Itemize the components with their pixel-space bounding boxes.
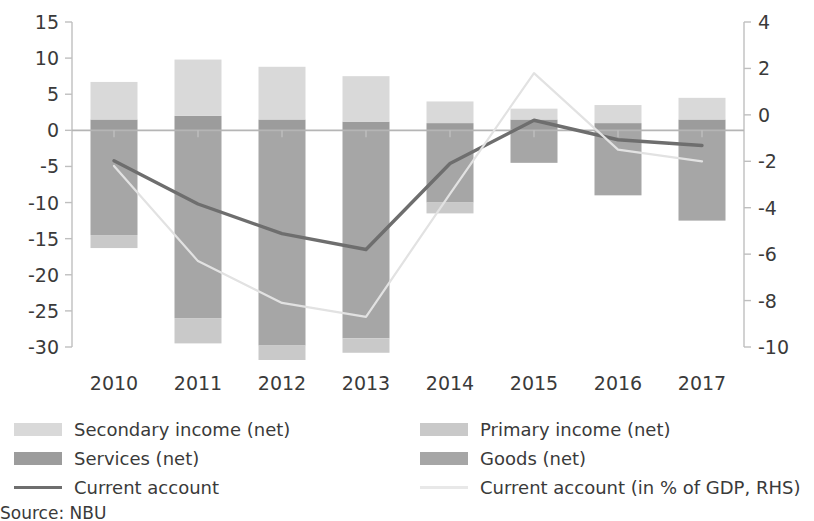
- svg-text:2017: 2017: [678, 372, 726, 394]
- svg-text:-5: -5: [40, 155, 59, 177]
- svg-text:2010: 2010: [90, 372, 138, 394]
- legend-item[interactable]: Services (net): [14, 444, 414, 473]
- svg-text:-20: -20: [28, 264, 59, 286]
- svg-text:0: 0: [47, 119, 59, 141]
- bar-segment: [91, 82, 138, 120]
- legend-item[interactable]: Current account (in % of GDP, RHS): [420, 473, 814, 502]
- legend-item-label: Goods (net): [480, 448, 586, 469]
- svg-text:5: 5: [47, 83, 59, 105]
- bar-segment: [259, 67, 306, 120]
- legend-swatch-icon: [14, 452, 62, 465]
- legend-item-label: Services (net): [74, 448, 199, 469]
- svg-text:4: 4: [758, 11, 770, 33]
- svg-text:-15: -15: [28, 228, 59, 250]
- bar-segment: [175, 60, 222, 116]
- legend-item[interactable]: Secondary income (net): [14, 415, 414, 444]
- svg-text:2015: 2015: [510, 372, 558, 394]
- legend-item[interactable]: Primary income (net): [420, 415, 814, 444]
- svg-text:-25: -25: [28, 300, 59, 322]
- bar-segment: [427, 130, 474, 202]
- legend-swatch-icon: [420, 452, 468, 465]
- svg-text:-10: -10: [28, 192, 59, 214]
- svg-text:0: 0: [758, 104, 770, 126]
- legend-column-right: Primary income (net)Goods (net)Current a…: [420, 415, 814, 502]
- balance-of-payments-chart: 151050-5-10-15-20-25-30420-2-4-6-8-10201…: [0, 0, 814, 400]
- svg-text:10: 10: [35, 47, 59, 69]
- bar-segment: [91, 235, 138, 248]
- bar-segment: [259, 120, 306, 131]
- chart-page: 151050-5-10-15-20-25-30420-2-4-6-8-10201…: [0, 0, 814, 521]
- bar-segment: [427, 203, 474, 214]
- chart-legend: Secondary income (net)Services (net)Curr…: [0, 415, 814, 503]
- legend-line-icon: [420, 481, 468, 494]
- bar-segment: [343, 122, 390, 131]
- svg-text:-2: -2: [758, 150, 777, 172]
- bar-segment: [427, 101, 474, 123]
- legend-item-label: Current account (in % of GDP, RHS): [480, 477, 800, 498]
- svg-text:2011: 2011: [174, 372, 222, 394]
- svg-text:2012: 2012: [258, 372, 306, 394]
- legend-line-icon: [14, 481, 62, 494]
- legend-swatch-icon: [420, 423, 468, 436]
- bar-segment: [343, 338, 390, 352]
- chart-plot-area: 151050-5-10-15-20-25-30420-2-4-6-8-10201…: [0, 0, 814, 400]
- bar-segment: [175, 116, 222, 130]
- bar-segment: [427, 123, 474, 130]
- svg-text:-4: -4: [758, 197, 777, 219]
- source-note: Source: NBU: [0, 503, 106, 521]
- bar-segment: [91, 130, 138, 235]
- svg-text:-10: -10: [758, 336, 789, 358]
- bar-segment: [679, 120, 726, 131]
- bar-segment: [175, 130, 222, 318]
- svg-text:-30: -30: [28, 336, 59, 358]
- bar-segment: [91, 120, 138, 131]
- bar-segment: [595, 105, 642, 123]
- svg-text:2016: 2016: [594, 372, 642, 394]
- bar-segment: [595, 123, 642, 130]
- legend-item[interactable]: Goods (net): [420, 444, 814, 473]
- svg-text:2: 2: [758, 57, 770, 79]
- bar-segment: [511, 109, 558, 120]
- svg-text:2014: 2014: [426, 372, 474, 394]
- legend-swatch-icon: [14, 423, 62, 436]
- svg-text:-8: -8: [758, 290, 777, 312]
- svg-text:2013: 2013: [342, 372, 390, 394]
- legend-item-label: Current account: [74, 477, 219, 498]
- svg-text:15: 15: [35, 11, 59, 33]
- legend-column-left: Secondary income (net)Services (net)Curr…: [14, 415, 414, 502]
- legend-item-label: Primary income (net): [480, 419, 671, 440]
- svg-text:-6: -6: [758, 243, 777, 265]
- bar-segment: [259, 346, 306, 360]
- legend-item[interactable]: Current account: [14, 473, 414, 502]
- bar-segment: [175, 318, 222, 343]
- bar-segment: [343, 76, 390, 122]
- bar-segment: [679, 98, 726, 120]
- legend-item-label: Secondary income (net): [74, 419, 290, 440]
